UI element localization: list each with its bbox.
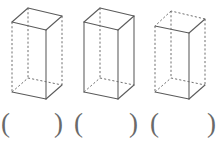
answer-blank-3[interactable]: ( ) bbox=[150, 106, 216, 141]
close-paren-1: ) bbox=[54, 110, 63, 137]
prism1-top-back-right-edge bbox=[28, 8, 62, 16]
prism2-top-front-right-edge bbox=[118, 16, 134, 30]
prism2-bottom-front-left-edge bbox=[84, 92, 118, 99]
open-paren-3: ( bbox=[150, 110, 159, 137]
prism3-bottom-front-right-edge bbox=[189, 85, 205, 99]
prism3-bottom-front-left-edge bbox=[155, 92, 189, 99]
prism1-top-front-left-edge bbox=[12, 22, 46, 30]
answer-value-3[interactable] bbox=[159, 123, 207, 124]
answer-blank-2[interactable]: ( ) bbox=[74, 106, 138, 141]
prism3-top-front-right-edge bbox=[189, 19, 205, 33]
rectangular-prism-middle bbox=[76, 0, 148, 110]
prism2-top-back-left-edge bbox=[84, 8, 100, 22]
prism1-bottom-front-left-edge bbox=[12, 92, 46, 99]
prism3-top-front-left-edge bbox=[155, 26, 189, 33]
prism2-top-front-left-edge bbox=[84, 22, 118, 30]
close-paren-2: ) bbox=[129, 110, 138, 137]
prism1-bottom-back-left-hidden-edge bbox=[12, 78, 28, 92]
rectangular-prism-right bbox=[147, 0, 219, 110]
close-paren-3: ) bbox=[207, 110, 216, 137]
rectangular-prism-left bbox=[2, 0, 74, 110]
prism1-top-front-right-edge bbox=[46, 16, 62, 30]
open-paren-1: ( bbox=[1, 110, 10, 137]
prism1-bottom-back-right-hidden-edge bbox=[28, 78, 62, 85]
open-paren-2: ( bbox=[74, 110, 83, 137]
prism2-bottom-back-right-hidden-edge bbox=[100, 78, 134, 85]
answer-value-2[interactable] bbox=[83, 123, 129, 124]
prism-figure-row bbox=[0, 0, 220, 110]
prism2-bottom-back-left-hidden-edge bbox=[84, 78, 100, 92]
prism1-bottom-front-right-edge bbox=[46, 85, 62, 99]
answer-blank-1[interactable]: ( ) bbox=[1, 106, 63, 141]
prism2-bottom-front-right-edge bbox=[118, 85, 134, 99]
worksheet-figure-page: ( ) ( ) ( ) bbox=[0, 0, 220, 141]
prism3-bottom-back-left-hidden-edge bbox=[155, 78, 171, 92]
prism3-top-back-right-hidden-edge bbox=[171, 11, 205, 19]
prism3-bottom-back-right-hidden-edge bbox=[171, 78, 205, 85]
prism2-top-back-right-edge bbox=[100, 8, 134, 16]
answer-value-1[interactable] bbox=[10, 123, 54, 124]
prism1-top-back-left-edge bbox=[12, 8, 28, 22]
answer-blank-row: ( ) ( ) ( ) bbox=[0, 106, 220, 141]
prism3-top-back-left-hidden-edge bbox=[155, 11, 171, 26]
